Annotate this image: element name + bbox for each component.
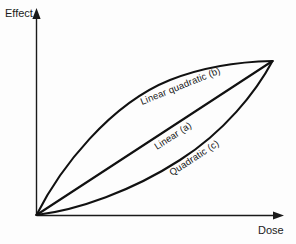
curve-label-linear-quadratic: Linear quadratic (b) — [139, 65, 222, 107]
curve-group — [37, 61, 273, 215]
y-axis-arrowhead — [32, 8, 40, 19]
chart-canvas: Effect Dose Linear quadratic (b) Linear … — [0, 0, 296, 244]
y-axis-label: Effect — [5, 7, 33, 19]
dose-effect-figure: Effect Dose Linear quadratic (b) Linear … — [0, 0, 296, 244]
x-axis — [37, 211, 285, 219]
x-axis-label: Dose — [258, 224, 284, 236]
curve-linear — [37, 61, 273, 215]
x-axis-arrowhead — [273, 211, 284, 219]
y-axis — [32, 8, 40, 215]
curve-label-quadratic: Quadratic (c) — [167, 137, 221, 177]
